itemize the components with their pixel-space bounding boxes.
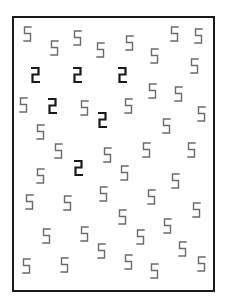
distractor-glyph-5 (171, 173, 180, 189)
distractor-glyph-5 (187, 142, 196, 158)
distractor-glyph-5 (124, 254, 133, 270)
distractor-glyph-5 (163, 218, 172, 234)
distractor-glyph-5 (103, 147, 112, 163)
distractor-glyph-5 (96, 42, 105, 58)
target-glyph-2 (73, 67, 82, 83)
target-glyph-2 (74, 160, 83, 176)
distractor-glyph-5 (190, 58, 199, 74)
target-glyph-2 (118, 67, 127, 83)
distractor-glyph-5 (147, 189, 156, 205)
target-glyph-2 (48, 98, 57, 114)
distractor-glyph-5 (142, 142, 151, 158)
distractor-glyph-5 (136, 229, 145, 245)
distractor-glyph-5 (120, 165, 129, 181)
distractor-glyph-5 (118, 209, 127, 225)
target-glyph-2 (31, 67, 40, 83)
distractor-glyph-5 (162, 118, 171, 134)
distractor-glyph-5 (50, 40, 59, 56)
distractor-glyph-5 (63, 195, 72, 211)
distractor-glyph-5 (22, 258, 31, 274)
distractor-glyph-5 (42, 228, 51, 244)
distractor-glyph-5 (25, 194, 34, 210)
distractor-glyph-5 (80, 226, 89, 242)
distractor-glyph-5 (36, 168, 45, 184)
distractor-glyph-5 (197, 256, 206, 272)
distractor-glyph-5 (197, 106, 206, 122)
distractor-glyph-5 (124, 98, 133, 114)
distractor-glyph-5 (54, 143, 63, 159)
distractor-glyph-5 (194, 28, 203, 44)
distractor-glyph-5 (125, 35, 134, 51)
distractor-glyph-5 (23, 26, 32, 42)
distractor-glyph-5 (36, 124, 45, 140)
distractor-glyph-5 (150, 263, 159, 279)
distractor-glyph-5 (99, 186, 108, 202)
distractor-glyph-5 (192, 202, 201, 218)
distractor-glyph-5 (19, 97, 28, 113)
distractor-glyph-5 (97, 243, 106, 259)
distractor-glyph-5 (73, 30, 82, 46)
distractor-glyph-5 (148, 83, 157, 99)
distractor-glyph-5 (150, 48, 159, 64)
target-glyph-2 (98, 112, 107, 128)
distractor-glyph-5 (60, 257, 69, 273)
distractor-glyph-5 (174, 86, 183, 102)
distractor-glyph-5 (178, 241, 187, 257)
distractor-glyph-5 (170, 26, 179, 42)
distractor-glyph-5 (80, 100, 89, 116)
